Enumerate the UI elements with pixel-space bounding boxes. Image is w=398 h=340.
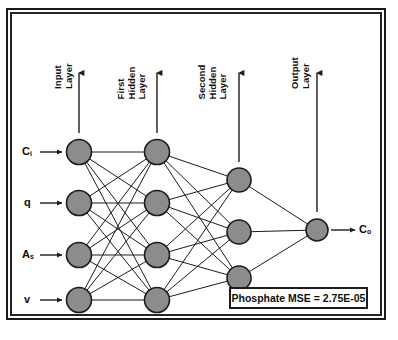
node-input-1 (67, 140, 92, 165)
layer-caption-output: Output Layer (290, 57, 311, 89)
input-arrows (40, 152, 62, 300)
output-layer-nodes (306, 219, 328, 241)
node-first-hidden-4 (145, 288, 170, 313)
input-layer-nodes (67, 140, 92, 313)
node-input-4 (67, 288, 92, 313)
second-hidden-layer-nodes (227, 168, 251, 290)
input-label-base: C (22, 145, 30, 157)
caption-line: Layer (218, 65, 229, 100)
mse-annotation-box: Phosphate MSE = 2.75E-05 (229, 287, 368, 309)
input-label-base: A (22, 248, 30, 260)
input-label-sub: i (30, 150, 32, 157)
caption-line: Layer (301, 57, 312, 89)
diagram-canvas: Input Layer First Hidden Layer Second Hi… (0, 0, 398, 340)
output-label-base: C (359, 223, 367, 235)
input-label-v: v (24, 293, 30, 305)
caption-line: Layer (137, 67, 148, 100)
layer-caption-second-hidden: Second Hidden Layer (197, 65, 229, 100)
node-second-hidden-2 (227, 220, 251, 244)
node-output-1 (306, 219, 328, 241)
input-label-as: As (22, 248, 34, 260)
layer-caption-input: Input Layer (53, 63, 74, 89)
input-label-ci: Ci (22, 145, 32, 157)
mse-annotation-text: Phosphate MSE = 2.75E-05 (232, 292, 366, 304)
caption-line: Layer (64, 63, 75, 89)
layer-caption-first-hidden: First Hidden Layer (116, 67, 148, 100)
node-second-hidden-1 (227, 168, 251, 192)
output-label-sub: o (367, 228, 371, 235)
input-label-q: q (24, 196, 31, 208)
node-first-hidden-1 (145, 140, 170, 165)
node-input-2 (67, 191, 92, 216)
caption-line: Input (53, 63, 64, 89)
caption-line: Output (290, 57, 301, 89)
input-label-base: q (24, 196, 31, 208)
input-label-sub: s (30, 253, 34, 260)
input-label-base: v (24, 293, 30, 305)
output-label-co: Co (359, 223, 371, 235)
caption-line: First (116, 67, 127, 100)
caption-line: Second (197, 65, 208, 100)
node-first-hidden-2 (145, 191, 170, 216)
edges-input-to-first-hidden (79, 152, 157, 300)
node-first-hidden-3 (145, 243, 170, 268)
node-input-3 (67, 243, 92, 268)
